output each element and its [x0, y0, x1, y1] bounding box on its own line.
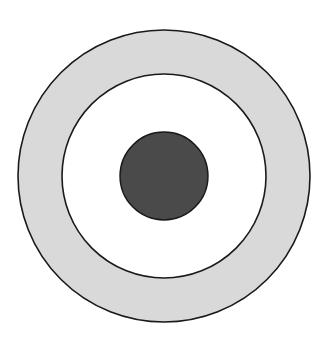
- center-dot: [120, 132, 208, 220]
- diagram-canvas: [0, 0, 335, 356]
- concentric-circles-diagram: [0, 0, 335, 356]
